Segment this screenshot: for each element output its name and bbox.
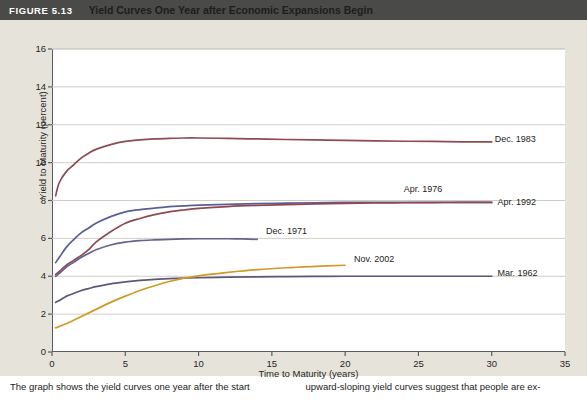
series-line-nov-2002 [56, 265, 345, 327]
x-tick-label: 25 [403, 358, 433, 369]
figure-frame: FIGURE 5.13 Yield Curves One Year after … [0, 0, 587, 376]
x-tick-label: 15 [257, 358, 287, 369]
figure-title: Yield Curves One Year after Economic Exp… [73, 4, 373, 16]
x-tick-label: 5 [110, 358, 140, 369]
series-label-mar-1962: Mar. 1962 [498, 268, 538, 278]
series-label-nov-2002: Nov. 2002 [354, 254, 394, 264]
y-tick-label: 10 [20, 157, 46, 168]
chart-area: Yield to Maturity (percent) Time to Matu… [0, 20, 587, 376]
y-tick-label: 12 [20, 119, 46, 130]
chart-plot [52, 49, 565, 352]
x-tick-label: 0 [37, 358, 67, 369]
y-tick-label: 2 [20, 308, 46, 319]
series-label-dec-1971: Dec. 1971 [266, 226, 307, 236]
figure-caption: The graph shows the yield curves one yea… [0, 380, 587, 393]
x-axis-title: Time to Maturity (years) [52, 368, 565, 379]
y-tick-label: 8 [20, 195, 46, 206]
series-label-apr-1976: Apr. 1976 [404, 184, 443, 194]
y-tick-label: 6 [20, 232, 46, 243]
caption-column-left: The graph shows the yield curves one yea… [10, 380, 282, 393]
figure-number: FIGURE 5.13 [0, 5, 73, 16]
y-tick-label: 14 [20, 81, 46, 92]
figure-header-bar: FIGURE 5.13 Yield Curves One Year after … [0, 0, 587, 20]
x-tick-label: 30 [477, 358, 507, 369]
y-tick-label: 4 [20, 270, 46, 281]
x-tick-label: 35 [550, 358, 580, 369]
series-line-dec-1971 [56, 239, 258, 277]
x-tick-label: 20 [330, 358, 360, 369]
y-tick-label: 0 [20, 346, 46, 357]
caption-column-right: upward-sloping yield curves suggest that… [306, 380, 578, 393]
series-label-dec-1983: Dec. 1983 [495, 134, 536, 144]
y-tick-label: 16 [20, 43, 46, 54]
x-tick-label: 10 [184, 358, 214, 369]
series-label-apr-1992: Apr. 1992 [498, 197, 537, 207]
